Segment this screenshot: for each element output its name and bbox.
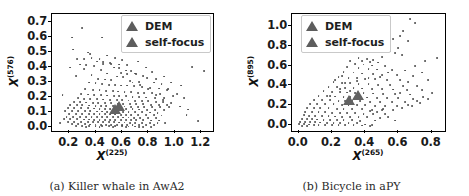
scatter-point bbox=[162, 99, 164, 101]
scatter-point bbox=[64, 110, 66, 112]
panel-a: X(576) X(225) DEM self-focus (a) Killer … bbox=[0, 0, 234, 196]
scatter-point bbox=[346, 66, 348, 68]
scatter-point bbox=[361, 108, 363, 110]
panel-a-y-axis-label-base: X bbox=[7, 78, 21, 87]
scatter-point bbox=[371, 124, 373, 126]
scatter-point bbox=[134, 72, 136, 74]
scatter-point bbox=[161, 114, 163, 116]
scatter-point bbox=[101, 116, 103, 118]
scatter-point bbox=[81, 104, 83, 106]
scatter-point bbox=[95, 82, 97, 84]
scatter-point bbox=[114, 125, 116, 127]
scatter-point bbox=[77, 97, 79, 99]
scatter-point bbox=[85, 126, 87, 128]
scatter-point bbox=[334, 95, 336, 97]
scatter-point bbox=[88, 118, 90, 120]
scatter-point bbox=[412, 75, 414, 77]
scatter-point bbox=[97, 121, 99, 123]
scatter-point bbox=[96, 60, 98, 62]
scatter-point bbox=[120, 72, 122, 74]
scatter-point bbox=[379, 117, 381, 119]
scatter-point bbox=[95, 105, 97, 107]
scatter-point bbox=[101, 83, 103, 85]
legend-label-self-focus: self-focus bbox=[325, 36, 384, 49]
scatter-point bbox=[125, 114, 127, 116]
scatter-point bbox=[137, 114, 139, 116]
scatter-point bbox=[179, 105, 181, 107]
scatter-point bbox=[334, 79, 336, 81]
panel-a-x-axis-label-sup: (225) bbox=[105, 148, 127, 157]
scatter-point bbox=[63, 118, 65, 120]
scatter-point bbox=[155, 78, 157, 80]
scatter-point bbox=[373, 59, 375, 61]
scatter-point bbox=[75, 113, 77, 115]
scatter-point bbox=[141, 111, 143, 113]
scatter-point bbox=[351, 108, 353, 110]
y-tick-label: 0.0 bbox=[23, 119, 47, 133]
scatter-point bbox=[324, 103, 326, 105]
scatter-point bbox=[93, 94, 95, 96]
scatter-point bbox=[129, 103, 131, 105]
panel-b-y-axis-label: X(895) bbox=[246, 56, 261, 87]
legend-item-self-focus[interactable]: self-focus bbox=[306, 35, 384, 49]
scatter-point bbox=[198, 120, 200, 122]
y-tick-mark bbox=[48, 81, 51, 82]
scatter-point bbox=[76, 58, 78, 60]
scatter-point bbox=[128, 117, 130, 119]
scatter-point bbox=[358, 83, 360, 85]
scatter-point bbox=[313, 107, 315, 109]
legend-item-dem[interactable]: DEM bbox=[306, 19, 384, 33]
legend-item-self-focus[interactable]: self-focus bbox=[126, 35, 204, 49]
scatter-point bbox=[70, 118, 72, 120]
scatter-point bbox=[142, 75, 144, 77]
scatter-point bbox=[299, 121, 301, 123]
scatter-point bbox=[411, 105, 413, 107]
x-tick-label: 0.4 bbox=[85, 135, 105, 149]
y-tick-label: 0.4 bbox=[23, 59, 47, 73]
y-tick-label: 0.6 bbox=[263, 58, 287, 72]
scatter-point bbox=[394, 120, 396, 122]
scatter-point bbox=[114, 84, 116, 86]
scatter-point bbox=[399, 79, 401, 81]
scatter-point bbox=[336, 119, 338, 121]
scatter-point bbox=[106, 94, 108, 96]
scatter-point bbox=[118, 63, 120, 65]
scatter-point bbox=[151, 71, 153, 73]
scatter-point bbox=[99, 108, 101, 110]
scatter-point bbox=[318, 124, 320, 126]
panel-a-legend: DEM self-focus bbox=[121, 15, 211, 53]
scatter-point bbox=[137, 106, 139, 108]
scatter-point bbox=[329, 99, 331, 101]
scatter-point bbox=[414, 65, 416, 67]
scatter-point bbox=[159, 106, 161, 108]
x-tick-mark bbox=[95, 130, 96, 133]
scatter-point bbox=[101, 36, 103, 38]
x-tick-mark bbox=[121, 130, 122, 133]
x-tick-mark bbox=[431, 130, 432, 133]
scatter-point bbox=[374, 78, 376, 80]
scatter-point bbox=[85, 116, 87, 118]
scatter-point bbox=[331, 91, 333, 93]
scatter-point bbox=[157, 112, 159, 114]
scatter-point bbox=[313, 99, 315, 101]
scatter-point bbox=[73, 101, 75, 103]
scatter-point bbox=[361, 72, 363, 74]
scatter-point bbox=[381, 74, 383, 76]
scatter-point bbox=[356, 104, 358, 106]
scatter-point bbox=[88, 125, 90, 127]
scatter-point bbox=[162, 101, 164, 103]
scatter-point bbox=[104, 78, 106, 80]
y-tick-label: 0.4 bbox=[263, 77, 287, 91]
scatter-point bbox=[97, 102, 99, 104]
scatter-point bbox=[130, 119, 132, 121]
y-tick-mark bbox=[288, 104, 291, 105]
scatter-point bbox=[125, 69, 127, 71]
scatter-point bbox=[166, 89, 168, 91]
scatter-point bbox=[81, 27, 83, 29]
scatter-point bbox=[339, 91, 341, 93]
scatter-point bbox=[100, 94, 102, 96]
scatter-point bbox=[306, 125, 308, 127]
legend-item-dem[interactable]: DEM bbox=[126, 19, 204, 33]
triangle-up-icon bbox=[306, 21, 318, 32]
scatter-point bbox=[421, 89, 423, 91]
